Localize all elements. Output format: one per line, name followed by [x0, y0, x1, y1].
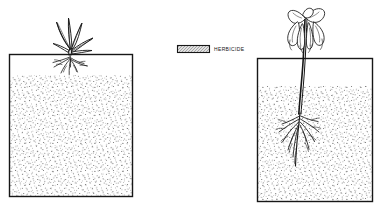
herbicide-legend-label: HERBICIDE: [214, 45, 244, 53]
herbicide-treated-soil-panel: [258, 8, 373, 201]
untreated-soil-fill-overlay: [10, 75, 132, 196]
herbicide-diagram: HERBICIDE: [0, 0, 390, 212]
leaf-2: [68, 18, 72, 49]
herbicide-swatch: [178, 46, 210, 53]
legend: [178, 46, 210, 53]
shallow-root-system: [53, 55, 88, 75]
healthy-plant: [53, 18, 93, 75]
diagram-canvas: [0, 0, 390, 212]
treated-soil-fill-overlay: [258, 86, 372, 201]
leaf-6: [53, 44, 69, 53]
untreated-soil-panel: [10, 18, 133, 197]
